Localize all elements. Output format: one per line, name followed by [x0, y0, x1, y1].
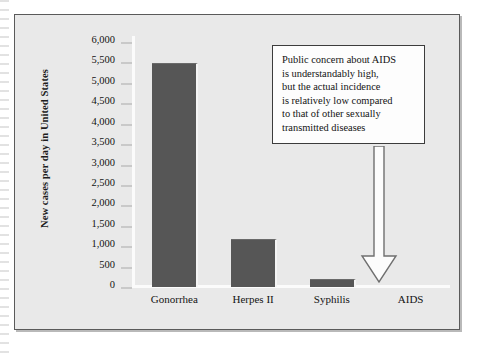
x-axis-label-syphilis: Syphilis — [293, 293, 372, 305]
y-axis-tick-mark — [121, 124, 132, 126]
x-axis-label-herpes-ii: Herpes II — [214, 293, 293, 305]
y-axis-tick-mark — [121, 267, 132, 269]
y-axis-tick-label: 500 — [99, 259, 115, 270]
y-axis-tick-mark — [121, 226, 132, 228]
y-axis-tick-mark — [121, 185, 132, 187]
y-axis-line — [132, 36, 135, 287]
y-axis-tick-label: 3,500 — [91, 136, 115, 147]
callout-line: but the actual incidence — [282, 80, 416, 94]
y-axis-tick-mark — [121, 144, 132, 146]
callout-line: Public concern about AIDS — [282, 53, 416, 67]
chart-figure: New cases per day in United States 05001… — [14, 14, 460, 330]
y-axis-tick-label: 4,500 — [91, 95, 115, 106]
y-axis-tick-label: 1,500 — [91, 218, 115, 229]
y-axis-title: New cases per day in United States — [39, 44, 50, 254]
y-axis-tick-mark — [121, 246, 132, 248]
y-axis-tick-mark — [121, 62, 132, 64]
bar-herpes-ii — [231, 239, 277, 287]
y-axis-tick-label: 5,500 — [91, 54, 115, 65]
callout-line: is relatively low compared — [282, 94, 416, 108]
bar-syphilis — [310, 279, 356, 287]
page-edge-artifact — [0, 0, 9, 353]
callout-line: to that of other sexually — [282, 107, 416, 121]
x-axis-label-aids: AIDS — [371, 293, 450, 305]
y-axis-tick-label: 3,000 — [91, 157, 115, 168]
down-arrow-outline-icon — [357, 146, 401, 286]
y-axis-tick-label: 4,000 — [91, 116, 115, 127]
y-axis-tick-mark — [121, 165, 132, 167]
callout-line: is understandably high, — [282, 67, 416, 81]
y-axis-tick-label: 0 — [110, 279, 115, 290]
y-axis-tick-label: 5,000 — [91, 75, 115, 86]
y-axis-tick-mark — [121, 42, 132, 44]
y-axis-tick-label: 2,500 — [91, 177, 115, 188]
callout-line: transmitted diseases — [282, 121, 416, 135]
y-axis-tick-label: 1,000 — [91, 238, 115, 249]
y-axis-tick-label: 2,000 — [91, 197, 115, 208]
y-axis-tick-label: 6,000 — [91, 34, 115, 45]
y-axis-tick-mark — [121, 287, 132, 289]
y-axis-tick-mark — [121, 83, 132, 85]
bar-gonorrhea — [152, 63, 198, 287]
y-axis-tick-mark — [121, 205, 132, 207]
callout-annotation: Public concern about AIDSis understandab… — [272, 45, 425, 144]
y-axis-tick-mark — [121, 103, 132, 105]
x-axis-label-gonorrhea: Gonorrhea — [135, 293, 214, 305]
